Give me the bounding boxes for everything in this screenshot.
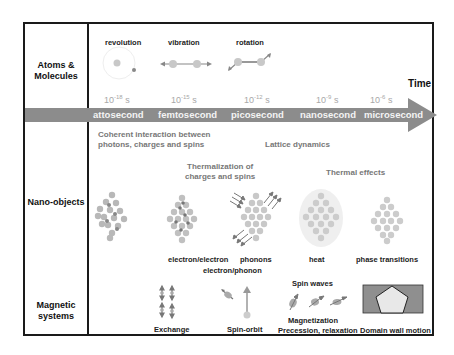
label-domain-wall-motion: Domain wall motion [360,326,431,335]
domain-wall-icon [0,0,454,355]
